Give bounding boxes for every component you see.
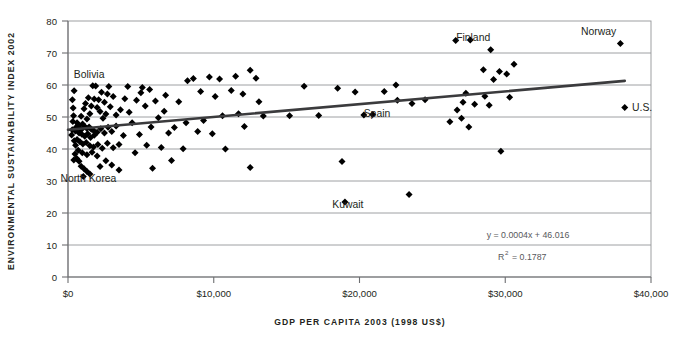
annotation-north-korea: North Korea [60, 173, 116, 184]
trendline-equation: y = 0.0004x + 46.016 [487, 230, 570, 240]
data-point [617, 40, 624, 47]
y-tick-label-30: 30 [46, 176, 57, 187]
data-point [142, 103, 149, 110]
data-point [165, 130, 172, 137]
data-point [70, 112, 77, 119]
data-point [180, 145, 187, 152]
y-tick-label-0: 0 [52, 272, 57, 283]
data-point [161, 108, 168, 115]
y-tick-label-50: 50 [46, 112, 57, 123]
data-point [486, 102, 493, 109]
data-point [315, 112, 322, 119]
data-point [503, 71, 510, 78]
data-point [158, 144, 165, 151]
data-point [69, 96, 76, 103]
data-point [116, 141, 123, 148]
y-tick-label-80: 80 [46, 16, 57, 27]
x-axis-title: GDP PER CAPITA 2003 (1998 US$) [274, 317, 445, 327]
data-point [621, 104, 628, 111]
data-point [454, 106, 461, 113]
annotation-kuwait: Kuwait [332, 199, 363, 210]
data-point [71, 87, 78, 94]
data-point [232, 73, 239, 80]
data-point [239, 90, 246, 97]
data-point [480, 66, 487, 73]
data-point [91, 96, 98, 103]
data-point [184, 77, 191, 84]
r-squared-annotation: R 2 = 0.1787 [498, 249, 547, 262]
data-point [286, 112, 293, 119]
data-point [339, 158, 346, 165]
data-point [132, 149, 139, 156]
data-point [408, 100, 415, 107]
data-point [143, 142, 150, 149]
data-point [152, 98, 159, 105]
data-point [458, 115, 465, 122]
y-tick-label-70: 70 [46, 48, 57, 59]
x-tick-label-20000: $20,000 [342, 288, 377, 299]
chart-canvas: 01020304050607080 $0$10,000$20,000$30,00… [0, 0, 678, 346]
data-point [446, 118, 453, 125]
y-tick-labels: 01020304050607080 [46, 16, 57, 283]
x-tick-labels: $0$10,000$20,000$30,000$40,000 [63, 288, 669, 299]
y-axis [62, 21, 68, 277]
data-point [253, 75, 260, 82]
data-point [471, 101, 478, 108]
data-point [465, 123, 472, 130]
data-point [168, 157, 175, 164]
y-tick-label-10: 10 [46, 240, 57, 251]
data-point [194, 128, 201, 135]
x-tick-label-0: $0 [63, 288, 74, 299]
scatter-chart-figure: 01020304050607080 $0$10,000$20,000$30,00… [0, 0, 678, 346]
data-point [206, 74, 213, 81]
data-point [136, 131, 143, 138]
data-point [94, 153, 101, 160]
data-point [70, 105, 77, 112]
x-tick-label-40000: $40,000 [634, 288, 669, 299]
data-point [105, 83, 112, 90]
data-point [108, 162, 115, 169]
data-point [126, 109, 133, 116]
data-point [506, 94, 513, 101]
data-point [133, 97, 140, 104]
data-point [212, 93, 219, 100]
data-point [247, 67, 254, 74]
annotation-finland: Finland [456, 32, 490, 43]
r-squared-value: = 0.1787 [512, 252, 547, 262]
y-tick-label-40: 40 [46, 144, 57, 155]
data-point [496, 68, 503, 75]
data-point [487, 46, 494, 53]
data-point [222, 146, 229, 153]
data-points [68, 36, 628, 205]
data-point [102, 157, 109, 164]
data-point [247, 164, 254, 171]
data-point [490, 76, 497, 83]
data-point [392, 82, 399, 89]
data-point [197, 88, 204, 95]
data-point [120, 132, 127, 139]
data-point [190, 75, 197, 82]
r-squared-exponent: 2 [505, 249, 509, 256]
r-squared-symbol: R [498, 252, 504, 262]
data-point [155, 114, 162, 121]
data-point [406, 191, 413, 198]
data-point [146, 86, 153, 93]
x-tick-label-10000: $10,000 [196, 288, 231, 299]
data-point [98, 89, 105, 96]
annotation-bolivia: Bolivia [74, 69, 105, 80]
data-point [107, 103, 114, 110]
data-point [97, 163, 104, 170]
data-point [116, 167, 123, 174]
data-point [85, 94, 92, 101]
data-point [113, 112, 120, 119]
data-point [352, 89, 359, 96]
data-point [381, 88, 388, 95]
data-point [255, 98, 262, 105]
y-tick-label-60: 60 [46, 80, 57, 91]
y-tick-label-20: 20 [46, 208, 57, 219]
data-point [334, 85, 341, 92]
data-point [137, 89, 144, 96]
data-point [110, 144, 117, 151]
data-point [459, 99, 466, 106]
data-point [148, 123, 155, 130]
